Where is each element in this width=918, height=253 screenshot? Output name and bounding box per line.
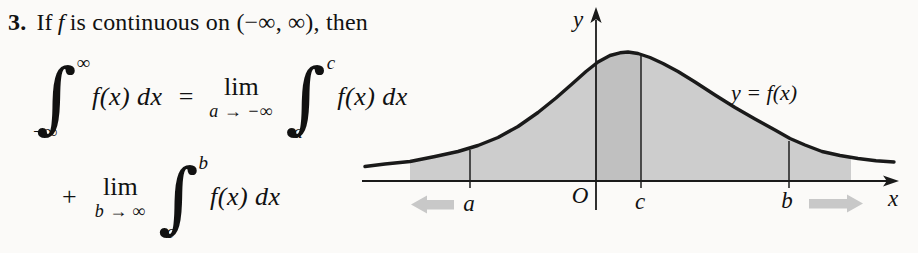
textbook-excerpt: 3.Iffis continuous on (−∞, ∞), then ∫ ∞ … (0, 0, 918, 253)
left-block-arrow-icon (411, 196, 454, 214)
y-axis-label: y (571, 7, 584, 32)
right-block-arrow-icon (809, 195, 863, 213)
c-label: c (635, 189, 645, 214)
graph-figure: y x O a c b y = f(x) (0, 0, 918, 253)
shaded-band-o-to-c (596, 40, 641, 185)
shaded-area-under-curve (400, 40, 860, 185)
a-label: a (463, 191, 475, 216)
curve-equation-label: y = f(x) (729, 80, 797, 105)
origin-label: O (572, 183, 589, 208)
x-axis-label: x (887, 186, 899, 211)
b-label: b (781, 188, 793, 213)
